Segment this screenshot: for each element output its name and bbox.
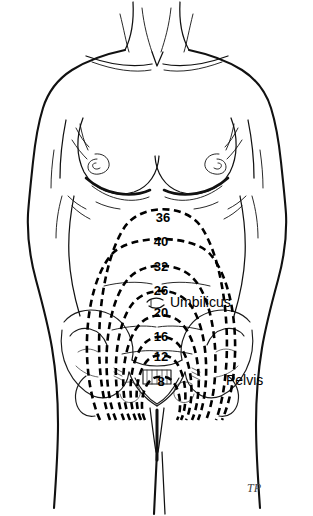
curve-label-36: 36 [156, 210, 170, 225]
curve-label-40: 40 [154, 234, 168, 249]
umbilicus-label: Umbilicus [170, 294, 231, 310]
pelvis-label: Pelvis [226, 372, 263, 388]
breast-contours [78, 118, 236, 200]
curve-label-20: 20 [154, 305, 168, 320]
curve-label-16: 16 [154, 329, 168, 344]
fundal-height-figure: 36 40 32 26 20 16 12 8 Umbilicus Pelvis … [0, 0, 313, 516]
curve-label-8: 8 [157, 374, 164, 389]
artist-signature: TP [247, 481, 262, 495]
curve-label-32: 32 [154, 259, 168, 274]
curve-label-12: 12 [154, 349, 168, 364]
anatomical-illustration: 36 40 32 26 20 16 12 8 Umbilicus Pelvis … [0, 0, 313, 516]
curve-label-26: 26 [154, 283, 168, 298]
costal-margin [68, 128, 246, 219]
